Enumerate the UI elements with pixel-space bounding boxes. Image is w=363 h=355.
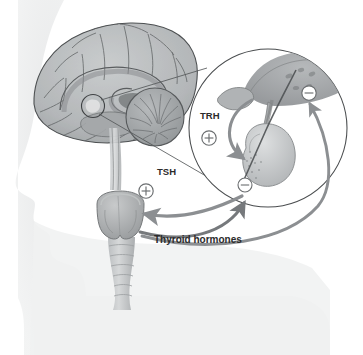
hypothalamus-feedback-minus-sign [302,86,316,100]
pituitary-feedback-minus-sign [238,178,252,192]
thyroid-hormone-to-pituitary-arrow [140,203,244,237]
figure-canvas: TRH [0,0,363,355]
pituitary-gland [243,124,295,187]
cerebellum [126,88,184,146]
trh-label: TRH [200,110,220,121]
tsh-label: TSH [157,166,176,177]
tsh-arrow [145,196,242,216]
hpt-axis-diagram: TRH [0,0,363,355]
magnified-inset-circle: TRH [189,49,350,207]
tsh-plus-sign [139,184,153,198]
thyroid-hormones-label: Thyroid hormones [154,234,242,245]
brainstem [109,128,121,190]
brain-sagittal [34,23,197,190]
